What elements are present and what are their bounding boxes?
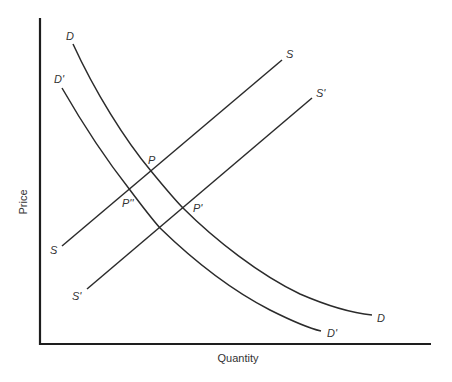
label-s-top: S [286, 48, 294, 60]
label-d-prime-top: D' [54, 73, 65, 85]
y-axis-label: Price [17, 189, 29, 214]
label-s-bottom: S [50, 244, 58, 256]
label-s-prime-bottom: S' [72, 290, 82, 302]
label-d-top: D [66, 30, 74, 42]
label-s-prime-top: S' [316, 87, 326, 99]
supply-curve-s-prime [87, 98, 312, 289]
demand-curve-d [73, 44, 372, 315]
label-d-bottom: D [377, 312, 385, 324]
axes [40, 18, 431, 344]
label-d-prime-bottom: D' [327, 327, 338, 339]
supply-demand-diagram: Price Quantity D D' S S' S S' D D' P P''… [0, 0, 452, 382]
equilibrium-p: P [148, 154, 156, 166]
equilibrium-p-prime: P' [193, 202, 203, 214]
equilibrium-p-double-prime: P'' [122, 197, 134, 209]
x-axis-label: Quantity [218, 352, 259, 364]
demand-curve-d-prime [62, 88, 321, 331]
